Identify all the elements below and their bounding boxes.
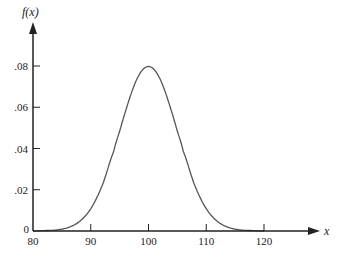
x-axis-title: x bbox=[323, 224, 330, 238]
y-tick-label: .08 bbox=[14, 60, 28, 72]
x-tick-label: 100 bbox=[140, 235, 157, 247]
density-chart: 0.02.04.06.08 8090100110120 f(x) x bbox=[0, 0, 345, 255]
y-tick-label: .02 bbox=[14, 184, 28, 196]
y-axis-arrow-icon bbox=[29, 22, 37, 34]
y-axis-ticks: 0.02.04.06.08 bbox=[14, 60, 40, 235]
x-tick-label: 120 bbox=[256, 235, 273, 247]
x-tick-label: 80 bbox=[28, 235, 40, 247]
y-tick-label: .06 bbox=[14, 101, 28, 113]
y-tick-label: 0 bbox=[24, 223, 30, 235]
y-tick-label: .04 bbox=[14, 143, 28, 155]
y-axis-title: f(x) bbox=[22, 5, 39, 19]
x-axis-arrow-icon bbox=[308, 227, 320, 235]
x-tick-label: 90 bbox=[85, 235, 97, 247]
x-axis-ticks: 8090100110120 bbox=[28, 224, 273, 247]
x-tick-label: 110 bbox=[198, 235, 215, 247]
density-curve bbox=[33, 66, 264, 231]
